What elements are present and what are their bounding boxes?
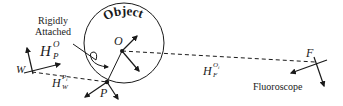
frame-w-label: W bbox=[16, 63, 26, 75]
rigid-label-line1: Rigidly bbox=[38, 15, 68, 26]
rigid-label-line2: Attached bbox=[35, 26, 71, 37]
transform-label-h-p-o: H O P bbox=[39, 39, 60, 61]
squiggle-arrow-icon bbox=[73, 44, 108, 67]
svg-text:i: i bbox=[66, 77, 68, 82]
frame-f-label: F bbox=[305, 46, 314, 60]
svg-text:P: P bbox=[52, 51, 59, 61]
transform-label-h-w-pi: H P i W bbox=[51, 73, 69, 91]
dashed-line-w-to-p bbox=[32, 72, 107, 82]
frame-o-label: O bbox=[114, 34, 123, 48]
frame-o-axis-1-icon bbox=[122, 36, 137, 51]
transform-label-h-f-oi: H O i F bbox=[202, 61, 220, 79]
svg-text:F: F bbox=[212, 71, 218, 79]
svg-text:W: W bbox=[62, 83, 69, 91]
svg-text:H: H bbox=[51, 76, 62, 90]
fluoroscope-label: Fluoroscope bbox=[253, 81, 303, 92]
object-label: Object bbox=[101, 3, 147, 23]
frame-w-axis-2-icon bbox=[24, 64, 60, 73]
frame-o-axis-2-icon bbox=[122, 51, 139, 71]
svg-text:H: H bbox=[202, 64, 213, 78]
frame-w-axis-1-icon bbox=[27, 48, 33, 74]
registration-diagram: Object O P W F Rigidly Attached H O P H … bbox=[0, 0, 343, 106]
svg-text:O: O bbox=[53, 39, 60, 49]
frame-p-label: P bbox=[99, 86, 108, 100]
frame-f-axis-1-icon bbox=[291, 60, 327, 73]
svg-text:i: i bbox=[218, 65, 220, 70]
link-o-to-p bbox=[107, 51, 122, 82]
frame-p-axis-2-icon bbox=[107, 82, 118, 99]
dashed-line-o-to-f bbox=[122, 51, 315, 62]
svg-text:H: H bbox=[39, 43, 52, 59]
